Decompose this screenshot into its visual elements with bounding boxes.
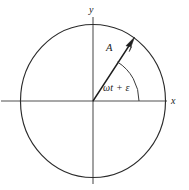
y-axis-label: y (89, 5, 93, 15)
phasor-diagram-figure: y x A ωt + ε (0, 0, 189, 190)
amplitude-label: A (106, 43, 112, 54)
diagram-canvas (0, 0, 189, 190)
x-axis-label: x (171, 96, 175, 106)
phase-angle-label: ωt + ε (103, 83, 130, 93)
